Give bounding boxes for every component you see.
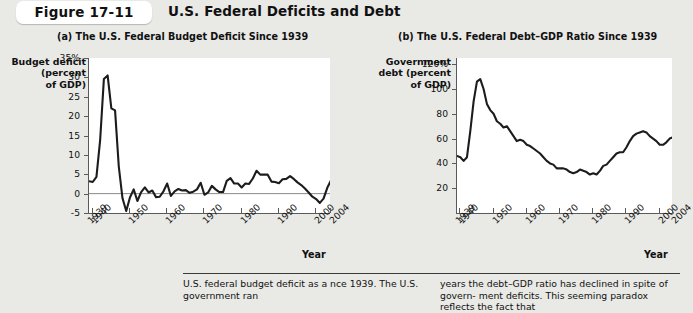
- y-tick-mark: [84, 155, 89, 156]
- x-tick-mark: [241, 208, 242, 213]
- panel-b-line-chart: [457, 58, 672, 213]
- y-tick-mark: [84, 116, 89, 117]
- y-tick-label: 35%: [34, 52, 80, 63]
- caption-column-left: U.S. federal budget deficit as a nce 193…: [183, 278, 421, 301]
- y-tick-mark: [84, 194, 89, 195]
- x-tick-mark: [278, 208, 279, 213]
- panel-b-plot-area: [456, 58, 672, 213]
- panel-a-x-axis-title: Year: [302, 249, 326, 260]
- y-tick-label: 100: [402, 83, 448, 94]
- caption-divider: [183, 273, 680, 274]
- panel-a-title: (a) The U.S. Federal Budget Deficit Sinc…: [57, 31, 308, 42]
- panel-b-title: (b) The U.S. Federal Debt–GDP Ratio Sinc…: [398, 31, 657, 42]
- y-tick-label: 15: [34, 130, 80, 141]
- x-tick-mark: [493, 208, 494, 213]
- panel-b-x-axis-title: Year: [644, 249, 668, 260]
- y-tick-mark: [452, 163, 457, 164]
- data-series-line: [457, 79, 672, 174]
- y-tick-label: 40: [402, 157, 448, 168]
- y-tick-label: 20: [34, 110, 80, 121]
- figure-title: U.S. Federal Deficits and Debt: [168, 3, 401, 19]
- y-tick-label: -5: [34, 207, 80, 218]
- y-tick-label: 120%: [402, 58, 448, 69]
- x-tick-mark: [92, 208, 93, 213]
- y-tick-mark: [84, 174, 89, 175]
- y-tick-mark: [84, 77, 89, 78]
- chart-panel-a: Budget deficit (percent of GDP) 35%30252…: [0, 46, 341, 268]
- figure-number-tab: Figure 17-11: [16, 1, 152, 24]
- y-tick-label: 30: [34, 71, 80, 82]
- y-tick-mark: [84, 97, 89, 98]
- chart-panel-b: Government debt (percent of GDP) 120%100…: [341, 46, 683, 268]
- x-tick-mark: [659, 208, 660, 213]
- y-tick-mark: [452, 64, 457, 65]
- data-series-line: [89, 75, 330, 211]
- y-tick-mark: [452, 89, 457, 90]
- y-tick-mark: [84, 136, 89, 137]
- x-tick-mark: [526, 208, 527, 213]
- y-tick-label: 10: [34, 149, 80, 160]
- caption-column-right: years the debt–GDP ratio has declined in…: [440, 278, 681, 313]
- figure-header: Figure 17-11 U.S. Federal Deficits and D…: [0, 0, 683, 26]
- panel-a-line-chart: [89, 58, 330, 213]
- y-tick-mark: [452, 188, 457, 189]
- y-tick-mark: [84, 58, 89, 59]
- panel-a-plot-area: [88, 58, 330, 213]
- y-tick-label: 80: [402, 108, 448, 119]
- y-tick-mark: [452, 114, 457, 115]
- y-tick-label: 0: [34, 188, 80, 199]
- y-tick-label: 20: [402, 182, 448, 193]
- figure-number-label: Figure 17-11: [16, 1, 152, 24]
- y-tick-mark: [452, 139, 457, 140]
- y-tick-label: 60: [402, 133, 448, 144]
- y-tick-label: 25: [34, 91, 80, 102]
- y-tick-label: 5: [34, 168, 80, 179]
